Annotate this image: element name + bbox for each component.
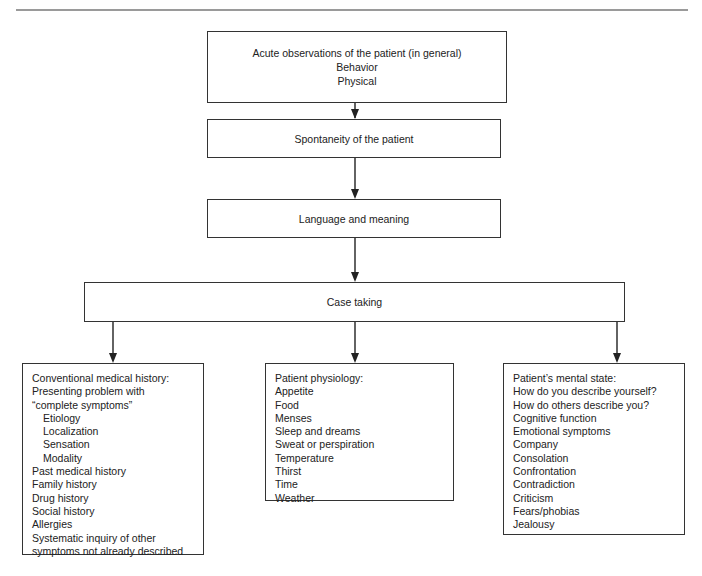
list-item: Confrontation bbox=[513, 465, 675, 478]
case-taking-label: Case taking bbox=[327, 295, 382, 309]
list-item: Thirst bbox=[275, 465, 444, 478]
physiology-title: Patient physiology: bbox=[275, 372, 444, 385]
list-item: Emotional symptoms bbox=[513, 425, 675, 438]
spontaneity-label: Spontaneity of the patient bbox=[294, 132, 413, 146]
list-item: How do you describe yourself? bbox=[513, 385, 675, 398]
node-spontaneity: Spontaneity of the patient bbox=[207, 119, 501, 158]
list-item: Family history bbox=[32, 478, 194, 491]
conventional-history-title: Conventional medical history: bbox=[32, 372, 194, 385]
node-acute-observations: Acute observations of the patient (in ge… bbox=[207, 31, 507, 103]
list-item: Food bbox=[275, 399, 444, 412]
node-conventional-history: Conventional medical history: Presenting… bbox=[22, 363, 204, 555]
list-item: Company bbox=[513, 438, 675, 451]
list-item: Systematic inquiry of other bbox=[32, 532, 194, 545]
list-item: Jealousy bbox=[513, 518, 675, 531]
list-item: Etiology bbox=[32, 412, 194, 425]
list-item: Localization bbox=[32, 425, 194, 438]
list-item: symptoms not already described bbox=[32, 545, 194, 558]
list-item: Allergies bbox=[32, 518, 194, 531]
node-patient-physiology: Patient physiology: Appetite Food Menses… bbox=[265, 363, 454, 501]
list-item: Sweat or perspiration bbox=[275, 438, 444, 451]
list-item: Past medical history bbox=[32, 465, 194, 478]
node-mental-state: Patient’s mental state: How do you descr… bbox=[503, 363, 685, 535]
list-item: Time bbox=[275, 478, 444, 491]
list-item: Sensation bbox=[32, 438, 194, 451]
list-item: Sleep and dreams bbox=[275, 425, 444, 438]
list-item: Menses bbox=[275, 412, 444, 425]
list-item: Modality bbox=[32, 452, 194, 465]
node-case-taking: Case taking bbox=[84, 282, 625, 322]
language-label: Language and meaning bbox=[299, 212, 409, 226]
list-item: Appetite bbox=[275, 385, 444, 398]
list-item: Fears/phobias bbox=[513, 505, 675, 518]
acute-observations-physical: Physical bbox=[337, 74, 376, 88]
acute-observations-title: Acute observations of the patient (in ge… bbox=[253, 46, 462, 60]
list-item: Contradiction bbox=[513, 478, 675, 491]
mental-state-title: Patient’s mental state: bbox=[513, 372, 675, 385]
list-item: Criticism bbox=[513, 492, 675, 505]
list-item: How do others describe you? bbox=[513, 399, 675, 412]
list-item: Presenting problem with bbox=[32, 385, 194, 398]
list-item: Social history bbox=[32, 505, 194, 518]
list-item: Cognitive function bbox=[513, 412, 675, 425]
list-item: “complete symptoms” bbox=[32, 399, 194, 412]
node-language: Language and meaning bbox=[207, 199, 501, 238]
list-item: Consolation bbox=[513, 452, 675, 465]
acute-observations-behavior: Behavior bbox=[336, 60, 377, 74]
list-item: Temperature bbox=[275, 452, 444, 465]
list-item: Weather bbox=[275, 492, 444, 505]
list-item: Drug history bbox=[32, 492, 194, 505]
